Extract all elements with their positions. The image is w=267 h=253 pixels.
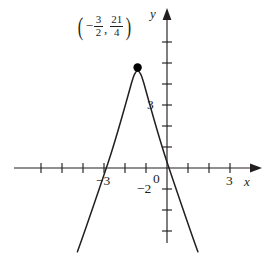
annotation-x-fraction: 3 2: [94, 14, 103, 38]
annotation-close-paren: ): [125, 16, 130, 37]
annotation-y-denominator: 4: [113, 27, 121, 38]
annotation-open-paren: (: [78, 16, 83, 37]
annotation-y-fraction: 21 4: [110, 14, 123, 38]
annotation-minus-sign: −: [86, 18, 93, 34]
y-axis-label: y: [150, 7, 156, 20]
x-tick-label-3: 3: [226, 174, 233, 188]
parabola-curve: [77, 71, 197, 252]
annotation-x-numerator: 3: [95, 14, 103, 25]
parabola-figure: y x 0 −3 3 3 −2 ( − 3 2 , 21 4 ): [0, 0, 267, 253]
y-tick-label-minus-2: −2: [137, 182, 151, 196]
annotation-x-denominator: 2: [95, 27, 103, 38]
origin-label: 0: [153, 172, 160, 186]
vertex-coordinate-annotation: ( − 3 2 , 21 4 ): [76, 14, 132, 38]
x-axis-arrow-icon: [250, 164, 262, 173]
annotation-comma: ,: [104, 21, 107, 38]
plot-canvas: [0, 0, 267, 253]
x-axis-label: x: [244, 175, 250, 188]
y-tick-label-3: 3: [147, 98, 154, 112]
annotation-y-numerator: 21: [110, 14, 123, 25]
vertex-point-marker: [133, 63, 141, 71]
x-tick-label-minus-3: −3: [96, 174, 110, 188]
y-axis-arrow-icon: [163, 8, 172, 20]
